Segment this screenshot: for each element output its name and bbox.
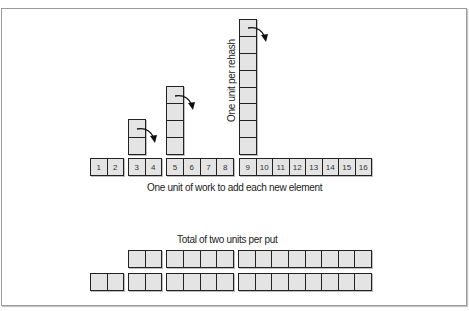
main-group-1-2: 1 2 [90,158,124,176]
unit-cell [107,274,124,290]
work-label: One unit of work to add each new element [147,182,322,193]
total-bottom-group-2b [128,273,162,291]
unit-cell [288,274,305,290]
element-cell: 2 [107,159,124,175]
unit-cell [338,251,355,267]
unit-cell [255,274,272,290]
unit-cell [354,274,371,290]
stack-cell [240,103,256,120]
stack-cell [240,53,256,70]
curved-arrow-icon [173,91,203,113]
element-cell: 10 [256,159,273,175]
unit-cell [239,274,255,290]
stack-cell [167,137,183,154]
element-cell: 7 [200,159,217,175]
unit-cell [91,274,107,290]
unit-cell [183,274,200,290]
total-bottom-group-2a [90,273,124,291]
unit-cell [145,274,162,290]
unit-cell [338,274,355,290]
stack-cell [240,137,256,154]
element-cell: 13 [305,159,322,175]
unit-cell [216,251,233,267]
total-top-group-4 [166,250,234,268]
rehash-label: One unit per rehash [226,39,237,122]
total-bottom-group-4 [166,273,234,291]
unit-cell [145,251,162,267]
stack-cell [240,120,256,137]
stack-cell [167,120,183,137]
element-cell: 4 [145,159,162,175]
unit-cell [167,251,183,267]
main-group-9-16: 9 10 11 12 13 14 15 16 [239,158,372,176]
curved-arrow-icon [246,23,276,45]
main-group-5-8: 5 6 7 8 [166,158,234,176]
unit-cell [288,251,305,267]
total-label: Total of two units per put [177,234,278,245]
unit-cell [129,251,145,267]
unit-cell [271,274,288,290]
unit-cell [321,274,338,290]
unit-cell [167,274,183,290]
unit-cell [200,274,217,290]
element-cell: 11 [272,159,289,175]
total-top-group-2 [128,250,162,268]
unit-cell [239,251,255,267]
element-cell: 5 [167,159,183,175]
curved-arrow-icon [135,124,165,146]
element-cell: 12 [289,159,306,175]
element-cell: 14 [322,159,339,175]
element-cell: 16 [355,159,372,175]
unit-cell [216,274,233,290]
total-bottom-group-8 [238,273,372,291]
element-cell: 9 [240,159,256,175]
element-cell: 6 [183,159,200,175]
unit-cell [183,251,200,267]
unit-cell [305,251,322,267]
unit-cell [354,251,371,267]
stack-cell [240,70,256,87]
element-cell: 1 [91,159,107,175]
unit-cell [321,251,338,267]
unit-cell [305,274,322,290]
element-cell: 8 [216,159,233,175]
unit-cell [200,251,217,267]
main-group-3-4: 3 4 [128,158,162,176]
total-top-group-8 [238,250,372,268]
unit-cell [255,251,272,267]
element-cell: 15 [338,159,355,175]
unit-cell [129,274,145,290]
stack-cell [240,87,256,104]
element-cell: 3 [129,159,145,175]
unit-cell [271,251,288,267]
